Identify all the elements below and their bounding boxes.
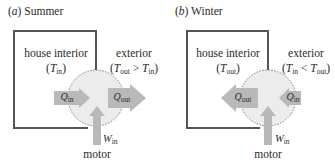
winter-title: (b) Winter [175,5,223,18]
winter-panel: (b) Winter house interior (Tout) exterio… [167,0,335,167]
summer-title: (a) Summer [8,5,63,18]
winter-interior-label: house interior [196,47,260,60]
winter-work-label: Win [275,133,290,148]
summer-motor-label: motor [83,148,110,161]
winter-diagram-graphics [167,0,335,167]
winter-heat-out-label: Qout [235,91,252,106]
summer-diagram-graphics [0,0,168,167]
summer-exterior-label: exterior [116,47,152,60]
summer-work-label: Win [103,133,118,148]
summer-interior-temp: (Tin) [46,62,66,78]
winter-exterior-label: exterior [288,47,324,60]
summer-interior-label: house interior [24,47,88,60]
winter-heat-in-label: Qin [286,91,299,106]
winter-exterior-relation: (Tin < Tout) [282,62,330,78]
summer-panel: (a) Summer house interior (Tin) exterior… [0,0,168,167]
summer-heat-out-label: Qout [114,91,131,106]
winter-interior-temp: (Tout) [216,62,240,78]
summer-exterior-relation: (Tout > Tin) [110,62,158,78]
winter-motor-label: motor [254,148,281,161]
summer-heat-in-label: Qin [60,91,73,106]
